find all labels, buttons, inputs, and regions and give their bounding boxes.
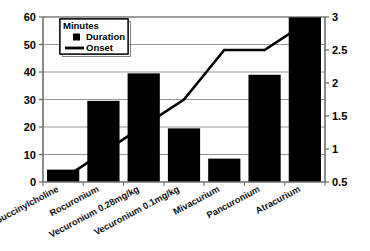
bar-line-chart: 0102030405060 0.511.522.53 Succinylcholi… [0, 0, 370, 251]
left-tick-label: 50 [24, 39, 36, 51]
bar [248, 75, 280, 182]
bar [87, 101, 119, 182]
legend-entry-onset: Onset [86, 42, 114, 53]
legend-title: Minutes [63, 20, 99, 31]
right-tick-label: 1 [332, 143, 338, 155]
square-marker-icon [73, 34, 80, 41]
left-tick-label: 0 [30, 176, 36, 188]
legend-entry-duration: Duration [86, 31, 125, 42]
right-tick-label: 2 [332, 77, 338, 89]
right-tick-label: 1.5 [332, 110, 347, 122]
left-tick-label: 40 [24, 66, 36, 78]
bar [168, 128, 200, 182]
left-tick-label: 20 [24, 121, 36, 133]
bar [208, 159, 240, 182]
left-tick-label: 60 [24, 11, 36, 23]
right-tick-label: 3 [332, 11, 338, 23]
bar [128, 73, 160, 182]
right-tick-label: 2.5 [332, 44, 347, 56]
chart-legend: Minutes Duration Onset [60, 19, 131, 57]
right-tick-label: 0.5 [332, 176, 347, 188]
bar [289, 17, 321, 182]
left-tick-label: 10 [24, 149, 36, 161]
left-tick-label: 30 [24, 94, 36, 106]
chart-container: 0102030405060 0.511.522.53 Succinylcholi… [0, 0, 370, 251]
